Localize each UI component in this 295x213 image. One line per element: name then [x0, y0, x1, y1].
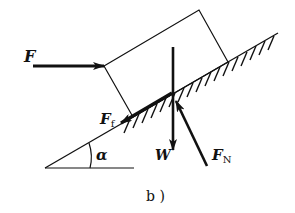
label-angle: α	[96, 146, 108, 164]
label-friction: Ff	[99, 110, 116, 129]
label-normal-force: FN	[211, 146, 232, 165]
friction-force-arrow	[121, 93, 172, 123]
figure-caption: b )	[146, 188, 165, 204]
normal-force-arrow	[176, 101, 207, 166]
block	[104, 10, 228, 117]
angle-arc	[89, 143, 91, 168]
label-applied-force: F	[23, 47, 37, 66]
incline-hatching	[124, 36, 274, 133]
free-body-diagram: F Ff α W FN b )	[0, 0, 295, 213]
label-normal-sub: N	[223, 154, 232, 165]
label-weight: W	[155, 147, 172, 163]
